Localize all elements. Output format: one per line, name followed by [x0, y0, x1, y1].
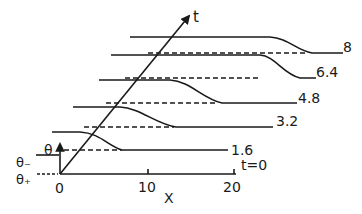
profile-label-4.8: 4.8 — [298, 90, 320, 106]
t-axis: t — [60, 8, 199, 174]
profile-t4.8: 4.8 — [74, 80, 320, 106]
profile-diagram: 10 20 X 0 θ θ₋ θ₊ t t=0 1.6 3.2 4.8 — [0, 0, 362, 214]
theta-plus-label: θ₊ — [16, 172, 31, 187]
x-axis: 10 20 X 0 — [55, 169, 241, 206]
profile-t8: 8 — [130, 37, 352, 55]
profile-label-1.6: 1.6 — [231, 142, 253, 158]
profile-label-6.4: 6.4 — [316, 64, 338, 80]
origin-label: 0 — [55, 180, 64, 196]
x-axis-label: X — [164, 190, 174, 206]
profile-label-3.2: 3.2 — [276, 113, 298, 129]
t-axis-label: t — [193, 8, 199, 26]
profile-t3.2: 3.2 — [73, 107, 298, 129]
profile-label-8: 8 — [343, 39, 352, 55]
x-tick-10: 10 — [138, 179, 156, 195]
profile-label-t0: t=0 — [241, 157, 267, 173]
theta-minus-label: θ₋ — [16, 155, 31, 170]
x-tick-20: 20 — [223, 179, 241, 195]
theta-axis: θ θ₋ θ₊ — [16, 142, 60, 187]
profile-t1.6: 1.6 — [52, 132, 253, 158]
profile-t6.4: 6.4 — [111, 55, 338, 80]
